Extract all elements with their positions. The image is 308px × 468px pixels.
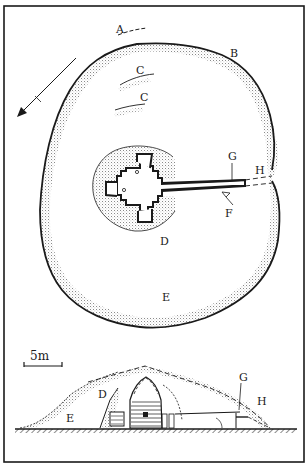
label-g-plan: G [228, 151, 237, 162]
label-e-section: E [66, 413, 74, 424]
scale-bar-label: 5m [30, 350, 49, 362]
label-h-section: H [257, 396, 267, 407]
label-h-plan: H [255, 165, 265, 176]
label-b: B [230, 48, 238, 59]
label-g-section: G [239, 372, 248, 383]
label-d-section: D [98, 389, 107, 400]
label-f: F [225, 208, 233, 219]
diagram-figure: A B C C D E F G H 5m D E G H [0, 0, 308, 468]
label-c-lower: C [140, 92, 148, 103]
label-a: A [116, 24, 124, 35]
label-c-upper: C [136, 65, 144, 76]
label-d-plan: D [160, 236, 169, 247]
label-e-plan: E [162, 292, 170, 303]
